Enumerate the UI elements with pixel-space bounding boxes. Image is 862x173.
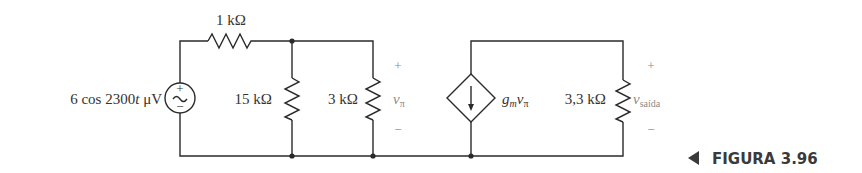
svg-text:+: + xyxy=(176,81,183,96)
label-r-series: 1 kΩ xyxy=(216,12,246,28)
figure-caption: FIGURA 3.96 xyxy=(712,150,818,168)
v-out-minus: − xyxy=(647,122,654,137)
v-out-plus: + xyxy=(647,58,654,73)
label-gm-vpi: gmvπ xyxy=(502,91,528,109)
label-v-pi: vπ xyxy=(393,91,405,109)
resistor-1k xyxy=(208,34,254,48)
label-v-out: vsaída xyxy=(633,91,661,109)
arrow-down-icon xyxy=(468,104,474,111)
circuit-diagram: + − 1 kΩ 6 cos 2300t μV 15 kΩ 3 kΩ + vπ … xyxy=(0,0,862,173)
v-pi-plus: + xyxy=(394,58,401,73)
junction-nodes xyxy=(289,38,473,158)
svg-text:−: − xyxy=(176,99,183,114)
label-r-3k: 3 kΩ xyxy=(328,91,358,107)
ac-voltage-source: + − xyxy=(165,81,195,114)
v-pi-minus: − xyxy=(394,122,401,137)
resistor-3k xyxy=(366,78,380,120)
label-source: 6 cos 2300t μV xyxy=(70,91,162,107)
label-r-load: 3,3 kΩ xyxy=(565,91,606,107)
resistor-15k xyxy=(285,78,299,120)
dependent-current-source xyxy=(447,74,495,122)
label-r-15k: 15 kΩ xyxy=(235,91,272,107)
caption-arrow-icon xyxy=(688,151,699,165)
resistor-load xyxy=(616,80,630,122)
